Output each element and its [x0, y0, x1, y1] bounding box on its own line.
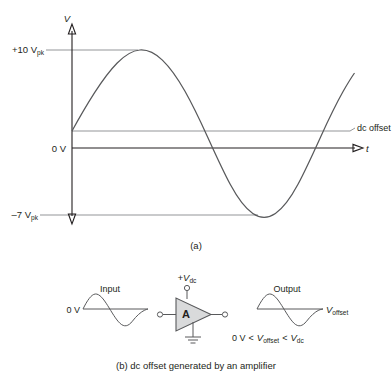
- inequality-op2: <: [282, 333, 287, 343]
- guide-leader-dc-offset: [350, 128, 355, 131]
- inequality-left: 0 V: [232, 333, 246, 343]
- supply-terminal: [184, 285, 189, 290]
- sine-wave-curve: [72, 50, 355, 217]
- amp-output-terminal: [222, 312, 227, 317]
- inequality-right-sub: dc: [297, 337, 305, 344]
- tick-label-plus10-sub: pk: [37, 49, 45, 57]
- inequality-op1: <: [249, 333, 254, 343]
- supply-label-sub: dc: [189, 277, 197, 284]
- output-label: Output: [273, 284, 301, 294]
- amplifier-label: A: [182, 308, 190, 320]
- tick-label-zero: 0 V: [52, 143, 67, 154]
- tick-label-plus10-value: +10 V: [12, 44, 38, 55]
- figure-dc-offset: V t +10 Vpk 0 V –7 Vpk dc offset (a) Inp…: [0, 0, 392, 381]
- panel-a: V t +10 Vpk 0 V –7 Vpk dc offset (a): [11, 13, 391, 251]
- output-ref-label-sub: offset: [332, 309, 348, 316]
- panel-b: Input 0 V +Vdc A: [66, 272, 348, 371]
- t-axis-label: t: [366, 143, 369, 154]
- output-ref-label: Voffset: [326, 304, 349, 316]
- panel-b-caption: (b) dc offset generated by an amplifier: [116, 360, 276, 371]
- tick-label-minus7-value: –7 V: [11, 209, 31, 220]
- tick-label-minus7: –7 Vpk: [11, 209, 38, 222]
- input-ref-label: 0 V: [66, 305, 80, 315]
- figure-svg: V t +10 Vpk 0 V –7 Vpk dc offset (a) Inp…: [0, 0, 392, 381]
- input-label: Input: [100, 284, 121, 294]
- tick-label-minus7-sub: pk: [31, 214, 39, 222]
- output-sine-wave: [257, 294, 323, 326]
- dc-offset-label: dc offset: [357, 123, 391, 133]
- input-sine-wave: [83, 294, 148, 326]
- panel-a-caption: (a): [190, 240, 202, 251]
- inequality-middle-sub: offset: [263, 337, 279, 344]
- tick-label-plus10: +10 Vpk: [12, 44, 45, 57]
- v-axis-label: V: [64, 13, 72, 24]
- inequality-expression: 0 V<Voffset<Vdc: [232, 332, 304, 344]
- supply-label: +Vdc: [178, 272, 198, 284]
- amp-input-terminal: [157, 312, 162, 317]
